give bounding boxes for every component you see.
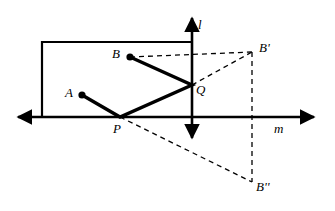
point-B-dot bbox=[126, 53, 133, 60]
point-Q-label: Q bbox=[196, 83, 205, 96]
point-markers bbox=[78, 53, 133, 98]
point-B-double-prime-label: B'' bbox=[256, 180, 270, 193]
geometry-figure: l m A B P Q B' B'' bbox=[0, 0, 335, 211]
dashed-P-to-Bdoubleprime bbox=[120, 117, 252, 182]
diagram-canvas bbox=[0, 0, 335, 211]
point-A-label: A bbox=[65, 86, 73, 99]
line-l-label: l bbox=[198, 18, 202, 31]
line-m-label: m bbox=[274, 122, 283, 135]
light-ray-path bbox=[82, 57, 192, 117]
point-P-label: P bbox=[113, 122, 121, 135]
dashed-Q-to-Bprime bbox=[192, 52, 252, 85]
point-B-prime-label: B' bbox=[259, 41, 270, 54]
point-A-dot bbox=[78, 91, 85, 98]
point-B-label: B bbox=[112, 47, 120, 60]
